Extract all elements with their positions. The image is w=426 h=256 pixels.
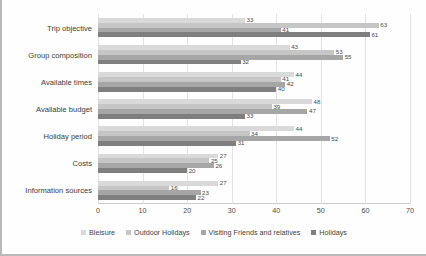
x-tick-label: 50 [317,206,325,215]
category-label: Holiday period [2,132,92,141]
legend-swatch-icon [81,230,86,235]
x-tick-label: 60 [361,206,369,215]
bar-track: 33 [98,114,410,119]
bar-track: 20 [98,168,410,173]
bar-group: 44414240 [98,72,410,92]
legend-swatch-icon [311,230,316,235]
gridline [410,14,411,204]
x-tick-label: 70 [406,206,414,215]
bar-value-label: 32 [241,59,249,65]
x-axis-tick-labels: 010203040506070 [98,206,410,220]
bar-group: 44345231 [98,126,410,146]
bar-track: 61 [98,32,410,37]
legend-swatch-icon [201,230,206,235]
x-tick-label: 40 [272,206,280,215]
legend-swatch-icon [126,230,131,235]
bar-value-label: 20 [187,168,195,174]
bar-group: 43535532 [98,45,410,65]
bar-group: 33634161 [98,18,410,38]
category-label: Available times [2,77,92,86]
legend-item[interactable]: Holidays [311,228,347,237]
chart-container: 3363416143535532444142404839473344345231… [0,0,426,256]
legend-item[interactable]: Visiting Friends and relatives [201,228,301,237]
bar[interactable] [98,168,187,173]
chart-legend: BleisureOutdoor HolidaysVisiting Friends… [2,228,426,237]
bar-value-label: 33 [245,113,253,119]
x-axis-line [98,203,410,204]
bar-group: 27252620 [98,153,410,173]
bar-group: 48394733 [98,99,410,119]
legend-label: Holidays [319,228,347,237]
category-label: Trip objective [2,23,92,32]
x-tick-label: 0 [96,206,100,215]
plot-area: 3363416143535532444142404839473344345231… [98,14,410,204]
category-label: Available budget [2,105,92,114]
x-tick-label: 10 [139,206,147,215]
bar-value-label: 31 [236,140,244,146]
bar[interactable] [98,114,245,119]
x-tick-label: 20 [183,206,191,215]
legend-label: Outdoor Holidays [134,228,190,237]
legend-item[interactable]: Outdoor Holidays [126,228,190,237]
category-label: Costs [2,159,92,168]
bar-value-label: 40 [276,86,284,92]
x-tick-label: 30 [228,206,236,215]
bar-track: 32 [98,60,410,65]
bar[interactable] [98,87,276,92]
legend-item[interactable]: Bleisure [81,228,115,237]
bar[interactable] [98,60,241,65]
bar-track: 40 [98,87,410,92]
bar-track: 31 [98,141,410,146]
legend-label: Bleisure [89,228,115,237]
category-label: Information sources [2,186,92,195]
bar-track: 22 [98,195,410,200]
legend-label: Visiting Friends and relatives [209,228,301,237]
bar[interactable] [98,195,196,200]
bar[interactable] [98,141,236,146]
bar-value-label: 61 [370,32,378,38]
bar-group: 27162322 [98,181,410,201]
category-label: Group composition [2,50,92,59]
bar-value-label: 22 [196,195,204,201]
bar[interactable] [98,32,370,37]
